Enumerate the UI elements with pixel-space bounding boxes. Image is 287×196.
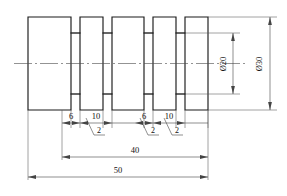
technical-drawing-canvas: Ø20 Ø30 [0, 0, 287, 196]
chamfer-note-1: 2 [97, 126, 101, 135]
diameter-major-label: Ø30 [254, 57, 264, 72]
dimension-40: 40 [131, 145, 140, 155]
dimension-6-second: 6 [142, 111, 146, 121]
shaft-drawing-svg: Ø20 Ø30 [0, 0, 287, 196]
dimension-10-second: 10 [165, 111, 174, 121]
overall-50-dimension: 50 [28, 165, 208, 177]
overall-40-dimension: 40 [62, 145, 208, 157]
dimension-50: 50 [114, 165, 123, 175]
dimension-6-first: 6 [69, 111, 73, 121]
dimension-10-first: 10 [92, 111, 101, 121]
segment-dimensions-row: 6 10 6 10 [62, 111, 208, 123]
diameter-minor-label: Ø20 [218, 57, 228, 72]
chamfer-note-2: 2 [151, 126, 155, 135]
chamfer-note-3: 2 [175, 126, 179, 135]
